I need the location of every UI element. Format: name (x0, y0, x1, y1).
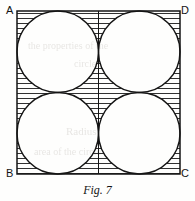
figure-container: the properties of the circles Radius are… (0, 0, 195, 201)
vertex-label-b: B (6, 168, 13, 179)
geometry-diagram (0, 0, 195, 201)
vertex-label-d: D (181, 5, 189, 16)
figure-caption: Fig. 7 (0, 184, 195, 196)
vertex-label-a: A (6, 5, 13, 16)
vertex-label-c: C (181, 168, 189, 179)
